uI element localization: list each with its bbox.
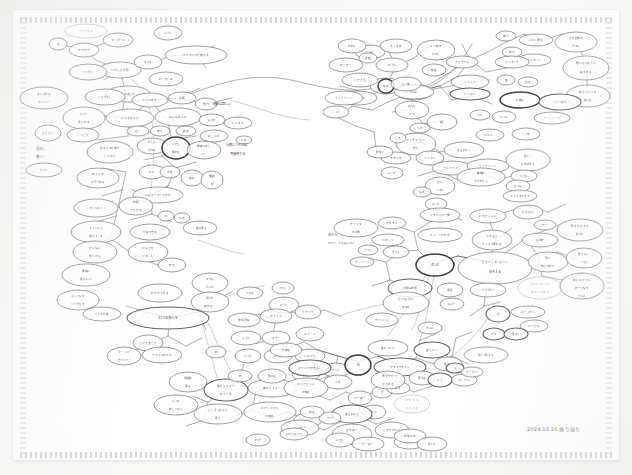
svg-text:ひろがる: ひろがる [130, 208, 142, 212]
svg-text:作り: 作り [413, 146, 419, 150]
svg-text:ナニカレ: ナニカレ [424, 156, 436, 160]
svg-text:感動は楽しい: 感動は楽しい [213, 101, 232, 106]
svg-text:コガイのかり: コガイのかり [285, 432, 303, 436]
svg-text:たのしり: たのしり [382, 238, 394, 242]
node: ガラッぱ [451, 75, 489, 89]
node: きもち [134, 55, 162, 69]
node: ごしえっちゃに見り [194, 404, 242, 424]
svg-text:おーっきい: おーっきい [521, 310, 536, 314]
node: こだわり者 [83, 307, 121, 321]
svg-text:つける: つける [246, 291, 255, 295]
svg-text:ダンボール: ダンボール [111, 38, 126, 42]
svg-text:いそろえ: いそろえ [354, 78, 366, 82]
node: モンジャリ [350, 257, 374, 267]
svg-text:電力: 電力 [503, 34, 509, 38]
svg-text:きっきみ: きっきみ [390, 44, 402, 48]
node: 素敵に見るたい [62, 264, 110, 286]
svg-text:サイズオカオカ: サイズオカオカ [510, 194, 530, 198]
svg-text:パピューカーナわす: パピューカーナわす [145, 193, 171, 197]
node: やわら [338, 39, 366, 53]
svg-text:ビジネス: ビジネス [232, 121, 244, 125]
svg-text:試作: 試作 [183, 129, 189, 133]
node: スカーフ [296, 327, 324, 341]
svg-text:きもり: きもり [392, 250, 401, 254]
node: ため [358, 245, 378, 255]
svg-text:おうち: おうち [388, 63, 397, 67]
node: イメージがわき [418, 228, 462, 242]
node: 時々だけでも覚えと [557, 219, 603, 241]
node: 電車たのしいく [187, 141, 221, 159]
svg-text:見よリ: 見よリ [512, 332, 521, 336]
svg-text:しそ: しそ [395, 136, 401, 140]
svg-text:ゴム: ゴム [477, 113, 483, 117]
svg-text:ストアんを: ストアんを [71, 294, 86, 298]
svg-text:ダンス: ダンス [431, 262, 440, 267]
node: ダンボール [103, 33, 133, 47]
node: バッグ [323, 106, 349, 118]
node: レッドチェ [132, 93, 168, 107]
svg-text:おけばけやしを: おけばけやしを [158, 315, 178, 320]
node: おうち [376, 58, 408, 72]
node: 通目 [437, 283, 463, 297]
svg-text:さく種: さく種 [402, 82, 411, 86]
node: ニッポン [470, 283, 506, 297]
svg-text:見り: 見り [215, 416, 221, 420]
svg-text:みやばー: みやばー [346, 428, 358, 432]
svg-text:作ることを増や: 作ることを増や [100, 146, 120, 150]
svg-text:ごしえっちゃに: ごしえっちゃに [208, 408, 228, 412]
node: ウカフこみやす [142, 347, 182, 363]
svg-text:チャドこん: チャドこん [375, 318, 390, 322]
svg-text:もの: もの [417, 126, 423, 130]
node: ゴミに… [476, 129, 504, 141]
node: 作る [158, 258, 186, 272]
svg-text:カーばー: カーばー [362, 442, 374, 446]
node: おかみん [513, 205, 543, 219]
node: どういうダンスバリ向きえる [458, 252, 532, 284]
svg-text:おまわこんこ: おまわこんこ [479, 214, 497, 218]
svg-text:こびり: こびり [336, 438, 345, 442]
svg-text:見ずに: 見ずに [36, 146, 46, 151]
node: ギザギザ [69, 43, 99, 57]
node: コガイのかり [280, 428, 308, 440]
svg-text:疲れ: 疲れ [189, 176, 195, 180]
node: 仲間ひろがる [119, 197, 153, 215]
node: つける [237, 287, 263, 299]
svg-text:おかげてれる: おかげてれる [151, 291, 169, 295]
svg-text:欲しくない: 欲しくない [169, 407, 184, 411]
svg-text:どつな 新い: どつな 新い [398, 297, 413, 301]
svg-text:ありも: ありも [408, 104, 417, 108]
svg-text:たいけ: たいけ [206, 285, 215, 289]
node: おまわこんこ [470, 209, 506, 223]
svg-text:ニッポン: ニッポン [482, 288, 494, 292]
node: 代表出 [270, 343, 302, 357]
node: お理な [500, 92, 540, 108]
svg-text:ラミこ: ラミこ [426, 326, 435, 330]
svg-text:昨年2: 昨年2 [376, 150, 384, 154]
svg-text:運動: 運動 [209, 174, 215, 178]
node: 2個 [427, 114, 457, 130]
node: ダンス [416, 254, 454, 276]
svg-text:き: き [381, 390, 384, 394]
svg-text:おしゃ: おしゃ [148, 140, 157, 144]
svg-text:どんなに: どんなに [89, 246, 101, 250]
node: なる [518, 77, 538, 87]
node: 変えたい [414, 342, 450, 358]
svg-text:ダーっと: ダーっと [118, 350, 130, 354]
svg-text:カラーミル: カラーミル [405, 398, 420, 402]
node: わ [228, 370, 252, 382]
node: 強い!見える [464, 347, 508, 363]
svg-text:すてー: すてー [272, 336, 281, 340]
svg-text:のばもの: のばもの [404, 434, 416, 438]
svg-text:たのし: たのし [432, 52, 441, 56]
svg-text:赤から: 赤から [328, 232, 337, 237]
svg-text:きも: きも [280, 286, 286, 290]
node: ポジション [74, 199, 118, 217]
svg-text:の子あ: の子あ [402, 305, 411, 309]
svg-text:もうか: もうか [242, 336, 251, 340]
node: みんなのこと [155, 108, 201, 126]
svg-text:うたがまくり: うたがまくり [139, 341, 157, 345]
svg-text:丸: 丸 [57, 42, 60, 46]
svg-text:仲間: 仲間 [133, 200, 139, 204]
node: 考え [150, 126, 170, 136]
svg-text:どういうダンスバリ: どういうダンスバリ [482, 260, 508, 264]
